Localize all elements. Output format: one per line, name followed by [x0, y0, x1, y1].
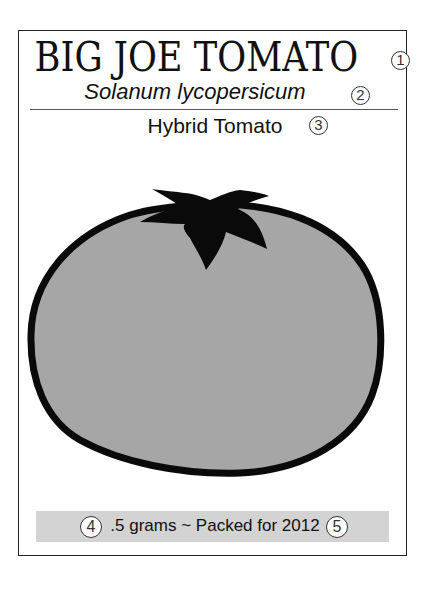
tomato-icon [0, 0, 430, 589]
callout-5: 5 [326, 516, 348, 538]
footer-text: .5 grams ~ Packed for 2012 [0, 513, 430, 539]
